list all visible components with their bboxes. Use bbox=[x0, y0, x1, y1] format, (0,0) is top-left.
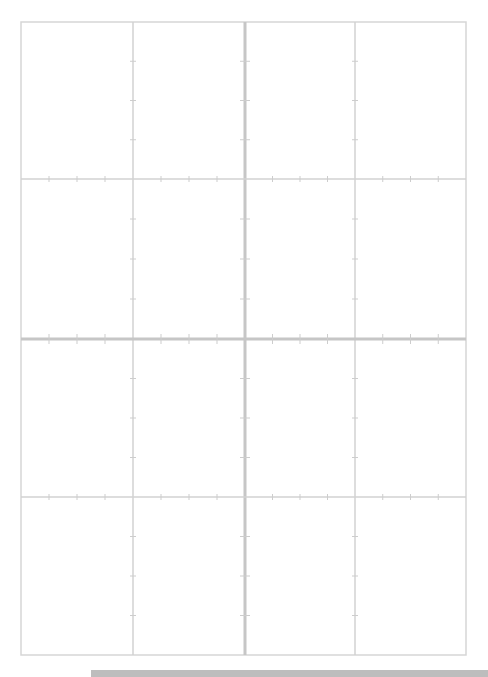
layout-grid-page bbox=[0, 0, 488, 677]
layout-grid bbox=[0, 0, 488, 677]
horizontal-scrollbar[interactable] bbox=[91, 670, 488, 677]
